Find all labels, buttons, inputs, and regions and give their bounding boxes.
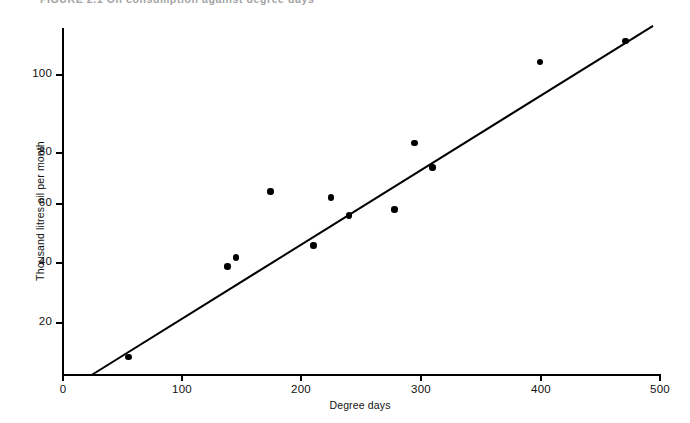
data-point [429, 164, 435, 170]
data-point [346, 212, 352, 218]
data-point [233, 254, 239, 260]
figure-page: FIGURE 2.1 Oil consumption against degre… [0, 0, 690, 423]
data-point [328, 194, 334, 200]
data-point [224, 263, 230, 269]
data-point [391, 206, 397, 212]
data-point [125, 354, 131, 360]
data-point [537, 59, 543, 65]
scatter-plot: 100 80 60 40 20 0 100 200 300 400 500 Th… [0, 0, 690, 423]
data-point [267, 188, 273, 194]
data-point [310, 242, 316, 248]
regression-line [0, 0, 690, 423]
data-point [622, 38, 628, 44]
